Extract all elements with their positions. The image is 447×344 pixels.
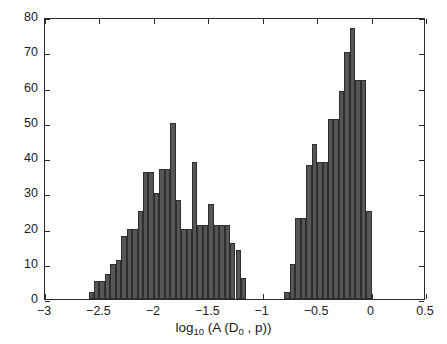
y-tick-label: 0 — [4, 292, 38, 306]
x-tick-mark — [154, 294, 155, 299]
y-tick-label: 80 — [4, 10, 38, 24]
x-tick-mark — [208, 294, 209, 299]
x-tick-mark — [154, 19, 155, 24]
y-tick-mark — [45, 195, 50, 196]
histogram-bars — [45, 19, 424, 299]
y-tick-mark — [45, 125, 50, 126]
x-tick-mark — [208, 19, 209, 24]
plot-area — [44, 18, 425, 300]
y-tick-mark — [419, 160, 424, 161]
x-tick-mark — [426, 19, 427, 24]
x-tick-label: −2 — [146, 304, 160, 318]
x-tick-label: 0 — [367, 304, 374, 318]
y-tick-label: 50 — [4, 116, 38, 130]
x-tick-label: −3 — [37, 304, 51, 318]
y-tick-mark — [419, 125, 424, 126]
x-tick-mark — [317, 294, 318, 299]
xlabel-close: , p)) — [244, 320, 272, 335]
x-tick-mark — [99, 19, 100, 24]
y-tick-label: 40 — [4, 151, 38, 165]
y-tick-mark — [45, 90, 50, 91]
x-tick-mark — [45, 294, 46, 299]
x-tick-mark — [263, 294, 264, 299]
y-tick-mark — [45, 160, 50, 161]
figure-canvas: number 01020304050607080 −3−2.5−2−1.5−1−… — [0, 0, 447, 344]
x-axis-label: log10 (A (D0 , p)) — [0, 320, 447, 337]
x-tick-label: 0.5 — [416, 304, 433, 318]
y-tick-mark — [45, 266, 50, 267]
histogram-bar — [366, 211, 371, 299]
y-tick-mark — [419, 54, 424, 55]
y-tick-mark — [419, 90, 424, 91]
y-tick-mark — [45, 231, 50, 232]
y-tick-label: 10 — [4, 257, 38, 271]
histogram-bar — [241, 278, 246, 299]
xlabel-base: log — [175, 320, 193, 335]
y-tick-mark — [419, 231, 424, 232]
y-tick-label: 70 — [4, 45, 38, 59]
y-tick-mark — [45, 301, 50, 302]
x-tick-mark — [317, 19, 318, 24]
y-tick-mark — [419, 301, 424, 302]
y-tick-mark — [419, 266, 424, 267]
y-tick-label: 30 — [4, 186, 38, 200]
x-tick-mark — [372, 19, 373, 24]
x-tick-mark — [99, 294, 100, 299]
x-tick-label: −2.5 — [86, 304, 111, 318]
y-tick-label: 60 — [4, 81, 38, 95]
y-tick-mark — [45, 54, 50, 55]
x-tick-label: −1 — [255, 304, 269, 318]
x-tick-mark — [45, 19, 46, 24]
x-tick-label: −0.5 — [304, 304, 329, 318]
y-tick-label: 20 — [4, 222, 38, 236]
y-tick-mark — [419, 19, 424, 20]
x-tick-mark — [372, 294, 373, 299]
xlabel-base-subscript: 10 — [193, 326, 204, 337]
xlabel-open: (A (D — [204, 320, 239, 335]
y-tick-mark — [419, 195, 424, 196]
x-tick-mark — [426, 294, 427, 299]
x-tick-label: −1.5 — [195, 304, 220, 318]
x-tick-mark — [263, 19, 264, 24]
